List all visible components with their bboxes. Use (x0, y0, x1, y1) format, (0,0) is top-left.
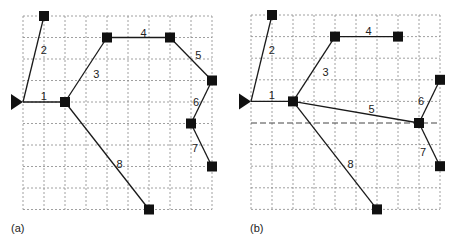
edge-label-1: 1 (41, 90, 47, 102)
node-square-icon (60, 97, 70, 107)
node-square-icon (414, 118, 424, 128)
edge-8 (293, 101, 377, 209)
node-square-icon (393, 32, 403, 42)
node-square-icon (144, 205, 154, 215)
node-square-icon (207, 76, 217, 86)
node-square-icon (165, 33, 175, 43)
edge-label-7: 7 (192, 142, 198, 154)
edge-label-4: 4 (365, 25, 371, 37)
edge-label-6: 6 (193, 96, 199, 108)
panel-a: 12345678 (a) (0, 0, 226, 245)
network-diagram-b: 12345678 (227, 0, 453, 245)
node-square-icon (435, 161, 445, 171)
node-square-icon (267, 10, 277, 20)
node-square-icon (39, 11, 49, 21)
node-square-icon (372, 204, 382, 214)
edge-label-2: 2 (269, 44, 275, 56)
panel-b: 12345678 (b) (227, 0, 453, 245)
edge-label-5: 5 (195, 49, 201, 61)
edge-label-4: 4 (141, 27, 147, 39)
network-diagram-a: 12345678 (0, 0, 226, 245)
edge-label-8: 8 (348, 158, 354, 170)
edge-label-8: 8 (116, 158, 122, 170)
node-square-icon (186, 119, 196, 129)
source-triangle-icon (11, 94, 23, 110)
panel-caption-a: (a) (11, 222, 24, 234)
node-square-icon (207, 162, 217, 172)
node-square-icon (102, 33, 112, 43)
grid (251, 15, 440, 209)
panel-caption-b: (b) (250, 222, 263, 234)
edge-label-7: 7 (420, 146, 426, 158)
edge-label-3: 3 (322, 66, 328, 78)
node-square-icon (435, 75, 445, 85)
edge-label-3: 3 (93, 68, 99, 80)
nodes (11, 11, 217, 215)
source-triangle-icon (239, 93, 251, 109)
edge-label-6: 6 (418, 95, 424, 107)
edge-label-5: 5 (369, 103, 375, 115)
node-square-icon (288, 96, 298, 106)
edges: 12345678 (23, 16, 212, 210)
edges: 12345678 (251, 15, 440, 209)
edge-label-1: 1 (269, 89, 275, 101)
node-square-icon (330, 32, 340, 42)
nodes (239, 10, 445, 214)
grid (23, 16, 212, 210)
edge-label-2: 2 (41, 44, 47, 56)
